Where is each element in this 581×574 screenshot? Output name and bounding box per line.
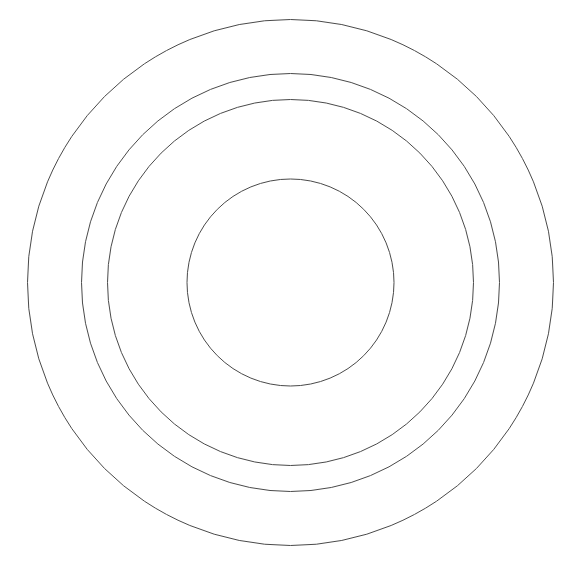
third-circle xyxy=(108,100,474,466)
second-circle xyxy=(82,74,500,492)
concentric-circles-diagram xyxy=(0,0,581,574)
outer-circle xyxy=(28,20,554,546)
inner-circle xyxy=(187,179,394,386)
